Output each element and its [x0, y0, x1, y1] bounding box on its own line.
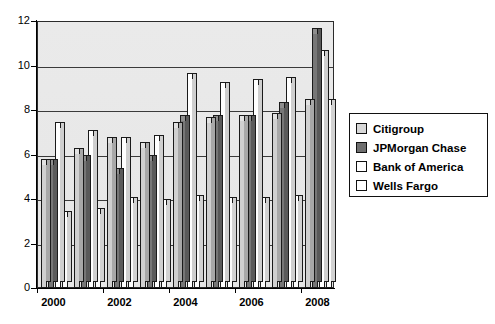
bar-side-face: [185, 115, 190, 282]
y-axis-tick-label: 2: [8, 238, 30, 249]
y-axis-tick-label: 10: [8, 60, 30, 71]
x-axis-tick-label: 2002: [90, 296, 150, 308]
bar-side-face: [298, 195, 303, 282]
bar: [173, 126, 179, 288]
y-axis-tick-label: 8: [8, 104, 30, 115]
bar-side-face: [79, 148, 84, 282]
x-axis-tick-label: 2000: [24, 296, 84, 308]
bar-side-face: [93, 130, 98, 282]
x-axis-tick: [37, 288, 38, 293]
bar: [107, 141, 113, 288]
y-axis-tick-label: 12: [8, 15, 30, 26]
bar-side-face: [166, 199, 171, 282]
bar: [272, 117, 278, 288]
x-axis-tick-label: 2004: [156, 296, 216, 308]
bar-top-face: [305, 99, 311, 105]
x-axis-tick-label: 2008: [288, 296, 348, 308]
bar-side-face: [126, 137, 131, 282]
bar: [41, 163, 47, 288]
bar-top-face: [140, 142, 146, 148]
bar-side-face: [218, 115, 223, 282]
y-axis-tick-label-wrap: 2: [0, 238, 30, 248]
bar-top-face: [154, 135, 160, 141]
legend-label: JPMorgan Chase: [373, 142, 466, 154]
bar-side-face: [119, 168, 124, 282]
bar-top-face: [187, 73, 193, 79]
bar: [140, 146, 146, 288]
bar-side-face: [133, 197, 138, 282]
y-axis-tick-label-wrap: 12: [0, 15, 30, 25]
x-axis-line: [36, 288, 335, 289]
legend-swatch-icon: [356, 180, 367, 191]
bar-top-face: [173, 122, 179, 128]
legend-item-bank-of-america: Bank of America: [356, 157, 483, 176]
bar-top-face: [55, 122, 61, 128]
bar: [239, 119, 245, 288]
legend-swatch-icon: [356, 142, 367, 153]
bar: [305, 103, 311, 288]
chart-legend: Citigroup JPMorgan Chase Bank of America…: [349, 113, 488, 197]
x-axis-tick-label: 2006: [222, 296, 282, 308]
bar-side-face: [265, 197, 270, 282]
bar-side-face: [244, 115, 249, 282]
y-axis-tick-label-wrap: 6: [0, 149, 30, 159]
bar: [74, 152, 80, 288]
bar: [206, 121, 212, 288]
bar-side-face: [232, 197, 237, 282]
bar-top-face: [253, 79, 259, 85]
y-axis-tick-label: 4: [8, 193, 30, 204]
bar-side-face: [145, 142, 150, 282]
bar-top-face: [206, 117, 212, 123]
bar-side-face: [225, 82, 230, 282]
bar-side-face: [53, 159, 58, 282]
bar-side-face: [192, 73, 197, 282]
y-axis-tick-label-wrap: 10: [0, 60, 30, 70]
bar-top-face: [180, 115, 186, 121]
legend-item-jpmorgan-chase: JPMorgan Chase: [356, 138, 483, 157]
bar-top-face: [107, 137, 113, 143]
y-axis-tick-label-wrap: 0: [0, 282, 30, 292]
bar-top-face: [88, 130, 94, 136]
legend-item-wells-fargo: Wells Fargo: [356, 176, 483, 195]
bar-side-face: [152, 155, 157, 282]
bar-side-face: [100, 208, 105, 282]
bar-side-face: [46, 159, 51, 282]
bar-side-face: [60, 122, 65, 282]
legend-label: Wells Fargo: [373, 180, 438, 192]
y-axis-tick-label: 6: [8, 149, 30, 160]
bar-top-face: [220, 82, 226, 88]
bar-side-face: [178, 122, 183, 282]
bar-top-face: [272, 113, 278, 119]
bar-side-face: [317, 28, 322, 282]
bar-side-face: [284, 102, 289, 282]
x-axis-tick: [169, 288, 170, 293]
y-axis-tick-label: 0: [8, 282, 30, 293]
y-axis-tick-label-wrap: 4: [0, 193, 30, 203]
legend-label: Bank of America: [373, 161, 463, 173]
legend-item-citigroup: Citigroup: [356, 119, 483, 138]
bar-side-face: [159, 135, 164, 282]
x-axis-tick: [235, 288, 236, 293]
bar-top-face: [74, 148, 80, 154]
bar-side-face: [324, 50, 329, 282]
bar-top-face: [312, 28, 318, 34]
legend-swatch-icon: [356, 123, 367, 134]
bar-top-face: [121, 137, 127, 143]
bar-series-layer: [37, 21, 334, 288]
bar-side-face: [277, 113, 282, 282]
bar-side-face: [199, 195, 204, 282]
bar-top-face: [239, 115, 245, 121]
bar-side-face: [258, 79, 263, 282]
bar-side-face: [310, 99, 315, 282]
bar-top-face: [279, 102, 285, 108]
chart-canvas: 024681012 20002002200420062008 Citigroup…: [0, 0, 495, 324]
bar-side-face: [86, 155, 91, 282]
bar-top-face: [286, 77, 292, 83]
x-axis-tick: [301, 288, 302, 293]
legend-swatch-icon: [356, 161, 367, 172]
bar-side-face: [112, 137, 117, 282]
x-axis-tick: [103, 288, 104, 293]
legend-label: Citigroup: [373, 123, 424, 135]
bar-side-face: [211, 117, 216, 282]
bar-side-face: [67, 211, 72, 282]
